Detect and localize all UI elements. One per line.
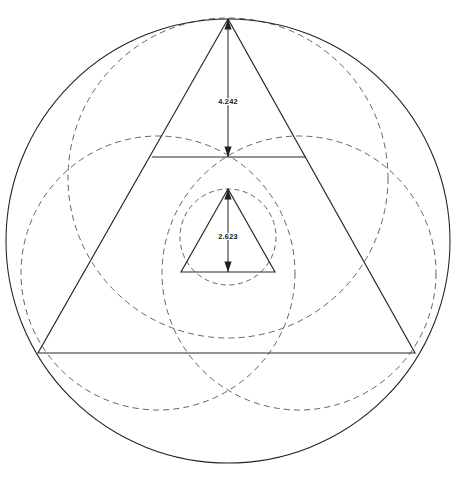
figure-canvas: 4.242 2.623 (0, 0, 452, 491)
arrow-down-icon (224, 262, 231, 273)
dimension-outer-height: 4.242 (218, 19, 238, 157)
dashed-circle-left (21, 136, 295, 410)
dimension-inner-label: 2.623 (218, 232, 238, 241)
arrow-down-icon (224, 147, 231, 158)
dimension-outer-label: 4.242 (218, 97, 238, 106)
outer-triangle (38, 19, 415, 353)
dashed-circle-right (162, 136, 436, 410)
geometry-diagram: 4.242 2.623 (0, 0, 452, 491)
